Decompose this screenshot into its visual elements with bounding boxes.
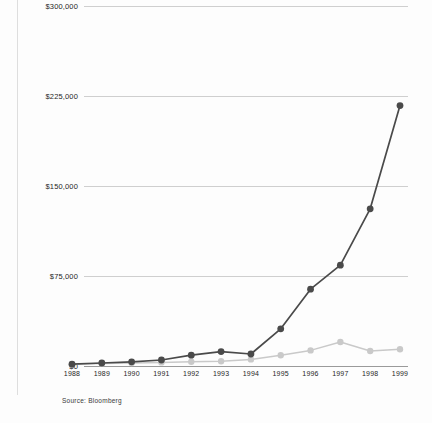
x-tick-label-1995: 1995 [273,370,289,377]
x-tick-label-1996: 1996 [302,370,318,377]
x-tick-label-1989: 1989 [94,370,110,377]
data-point-secondary-1992 [188,359,194,365]
data-point-secondary-1995 [278,352,284,358]
data-point-primary-1995 [277,325,284,332]
data-point-primary-1998 [367,205,374,212]
series-primary [69,102,404,367]
x-tick-label-1999: 1999 [392,370,408,377]
data-point-primary-1989 [98,360,105,367]
data-point-primary-1988 [69,361,76,368]
data-point-primary-1994 [248,351,255,358]
x-tick-label-1992: 1992 [183,370,199,377]
line-chart: $0$75,000$150,000$225,000$300,000 198819… [0,0,432,423]
data-point-primary-1996 [307,286,314,293]
data-point-primary-1990 [128,358,135,365]
data-point-primary-1999 [397,102,404,109]
x-tick-label-1990: 1990 [123,370,139,377]
x-tick-label-1991: 1991 [153,370,169,377]
source-note: Source: Bloomberg [62,397,122,404]
data-point-secondary-1999 [397,346,403,352]
x-tick-label-1998: 1998 [362,370,378,377]
data-point-primary-1991 [158,357,165,364]
chart-page: $0$75,000$150,000$225,000$300,000 198819… [0,0,432,423]
x-tick-label-1994: 1994 [243,370,259,377]
data-point-primary-1992 [188,352,195,359]
data-point-secondary-1997 [337,339,343,345]
data-point-secondary-1998 [367,348,373,354]
data-point-secondary-1996 [307,347,313,353]
plot-svg [0,0,432,423]
x-tick-label-1997: 1997 [332,370,348,377]
x-tick-label-1988: 1988 [64,370,80,377]
data-point-primary-1997 [337,262,344,269]
series-line-primary [72,106,400,365]
data-point-secondary-1993 [218,358,224,364]
data-point-primary-1993 [218,348,225,355]
x-tick-label-1993: 1993 [213,370,229,377]
